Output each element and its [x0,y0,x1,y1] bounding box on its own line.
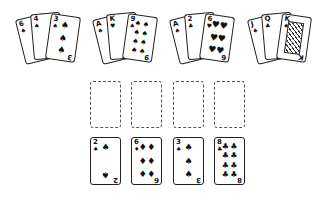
empty-card-slot[interactable] [214,81,245,128]
spade-icon: ♠ [133,29,140,37]
spade-icon: ♠ [180,170,197,179]
club-icon: ♣ [222,152,229,160]
suit-icon: ♠ [174,27,181,34]
spade-icon: ♠ [131,47,138,55]
card-rank-bottom: 3 [67,53,73,61]
card-pips: ♣ ♣ ♣ ♣ ♣ ♣ ♣ ♣ [221,143,238,179]
card-rank-bottom: 2 [113,176,118,183]
suit-icon: ♠ [20,27,27,34]
card-rank-bottom: 3 [196,176,201,183]
suit-icon: ♣ [265,23,271,29]
row-card[interactable]: 8 ♣ ♣ ♣ ♣ ♣ ♣ ♣ ♣ ♣ 8 [214,137,245,185]
club-icon: ♣ [230,143,237,151]
club-icon: ♣ [230,162,237,170]
card-pips: ♥ ♥ ♥ ♥ ♥ ♥ [207,20,228,56]
hand-4: J ♠ Q ♣ K ♠ K [250,12,320,72]
diamond-icon: ♦ [139,143,146,152]
hand-1: 6 ♠ 4 ♠ 3 ♠ ♠ ♠ ♠ 3 [18,12,88,72]
card-rank-bottom: 6 [154,176,159,183]
heart-icon: ♥ [208,45,216,55]
suit-icon: ♠ [252,27,259,34]
heart-icon: ♥ [219,21,227,31]
card-face: 6 ♦ ♦ ♦ ♦ ♦ ♦ ♦ 6 [131,137,162,185]
spade-icon: ♠ [140,39,147,47]
hand-card[interactable]: 6 ♥ ♥ ♥ ♥ ♥ ♥ ♥ 6 [199,13,235,63]
heart-icon: ♥ [217,34,225,44]
spade-icon: ♠ [97,143,114,152]
card-rank-bottom: K [298,53,304,61]
suit-icon: ♣ [188,23,194,29]
row-card[interactable]: 3 ♠ ♠ ♠ ♠ 3 [173,137,204,185]
card-face: 8 ♣ ♣ ♣ ♣ ♣ ♣ ♣ ♣ ♣ 8 [214,137,245,185]
hand-2: A ♠ K ♥ 9 ♠ ♠ ♠ ♠ ♠ ♠ ♠ ♠ ♠ 9 [95,12,165,72]
hand-card[interactable]: K ♠ K [276,13,312,63]
diamond-icon: ♦ [147,143,154,152]
spade-icon: ♠ [142,21,149,29]
spade-icon: ♠ [180,143,197,152]
card-pips: ♠ ♠ ♠ [180,143,197,179]
club-icon: ♣ [230,152,237,160]
hand-3: A ♠ 2 ♣ 6 ♥ ♥ ♥ ♥ ♥ ♥ ♥ 6 [172,12,242,72]
hand-card[interactable]: 3 ♠ ♠ ♠ ♠ 3 [45,13,81,63]
card-rank-bottom: 9 [144,53,150,61]
spade-icon: ♠ [134,20,141,28]
spade-icon: ♠ [97,170,114,179]
card-pips: ♦ ♦ ♦ ♦ ♦ ♦ [138,143,155,179]
card-pips: ♠ ♠ ♠ [53,20,74,56]
heart-icon: ♥ [211,20,219,30]
suit-icon: ♠ [97,27,104,34]
spade-icon: ♠ [132,38,139,46]
suit-icon: ♥ [110,23,116,29]
card-face: 3 ♠ ♠ ♠ ♠ 3 [173,137,204,185]
empty-card-slot[interactable] [90,81,121,128]
suit-icon: ♠ [34,23,40,29]
spade-icon: ♠ [141,30,148,38]
diamond-icon: ♦ [139,157,146,166]
hand-card[interactable]: 9 ♠ ♠ ♠ ♠ ♠ ♠ ♠ ♠ ♠ 9 [122,13,158,63]
club-icon: ♣ [222,171,229,179]
club-icon: ♣ [222,143,229,151]
heart-icon: ♥ [209,33,217,43]
card-pips: ♠ ♠ ♠ ♠ ♠ ♠ ♠ ♠ [130,20,151,56]
club-icon: ♣ [222,162,229,170]
empty-card-slot[interactable] [131,81,162,128]
spade-icon: ♠ [54,32,71,43]
row-card[interactable]: 6 ♦ ♦ ♦ ♦ ♦ ♦ ♦ 6 [131,137,162,185]
spade-icon: ♠ [180,157,197,166]
face-card-art [284,21,304,55]
card-rank-bottom: 6 [221,53,227,61]
card-pips: ♠ ♠ [97,143,114,179]
card-rank-bottom: 8 [237,176,242,183]
empty-card-slot[interactable] [173,81,204,128]
card-face: 2 ♠ ♠ ♠ 2 [90,137,121,185]
diamond-icon: ♦ [147,157,154,166]
diamond-icon: ♦ [139,170,146,179]
row-card[interactable]: 2 ♠ ♠ ♠ 2 [90,137,121,185]
spade-icon: ♠ [56,20,73,31]
